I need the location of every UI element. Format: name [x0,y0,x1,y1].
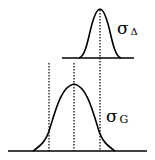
sigma-g-label: σG [106,106,128,126]
gaussian-diagram: σΔ σG [0,0,155,160]
sigma-delta-label: σΔ [117,18,138,38]
